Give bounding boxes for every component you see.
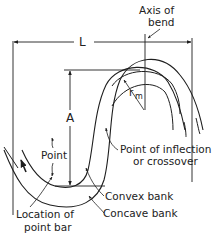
axis-of-bend: Axis of bend (139, 4, 175, 110)
radius-subscript: m (135, 92, 143, 101)
point-label: Point (41, 149, 67, 161)
meander-diagram: L Axis of bend A r m (0, 0, 216, 242)
inflection-label-line1: Point of inflection (120, 143, 211, 155)
wavelength-label: L (79, 35, 86, 49)
inflection-leader (106, 128, 118, 150)
axis-label-line1: Axis of (139, 4, 175, 16)
left-outer-tail (4, 147, 18, 168)
convex-annotation: Convex bank (86, 168, 174, 202)
point-annotation: Point (41, 138, 67, 176)
point-leader-up (52, 138, 53, 148)
radius-label: r (129, 86, 134, 98)
arrow-up-icon (21, 160, 26, 172)
point-bar-label-line2: point bar (24, 221, 72, 233)
channel: r m (4, 59, 203, 207)
inner-bank (22, 67, 185, 187)
inflection-annotation: Point of inflection or crossover (106, 128, 211, 167)
point-bar-annotation: Location of point bar (16, 177, 74, 233)
point-bar-label-line1: Location of (16, 208, 74, 220)
amplitude-label: A (66, 111, 75, 125)
axis-leader (148, 29, 160, 38)
point-leader-down (52, 163, 53, 176)
concave-label: Concave bank (103, 207, 178, 219)
axis-label-line2: bend (148, 16, 174, 28)
amplitude-dimension: A (55, 70, 140, 186)
convex-leader (86, 168, 104, 196)
convex-label: Convex bank (105, 190, 174, 202)
right-tail-b (196, 118, 200, 134)
inflection-label-line2: or crossover (133, 155, 198, 167)
right-tail-a (184, 122, 186, 137)
concave-leader (89, 196, 104, 213)
outer-bank (4, 59, 203, 207)
